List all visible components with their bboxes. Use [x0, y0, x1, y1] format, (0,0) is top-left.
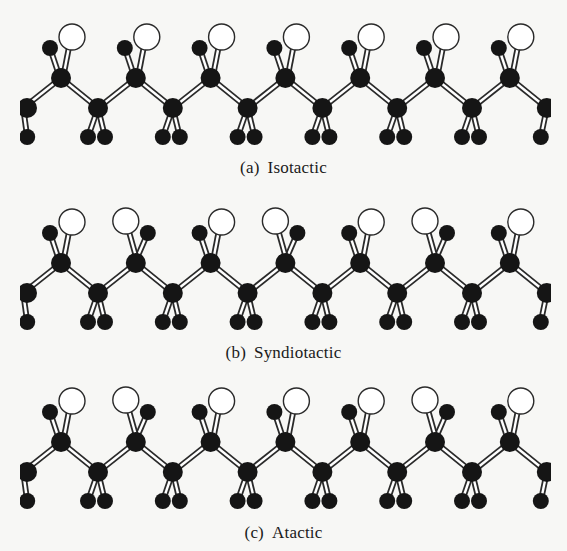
carbon-backbone-atom	[88, 462, 108, 482]
hydrogen-atom	[80, 129, 96, 145]
substituent-group	[508, 209, 534, 235]
carbon-backbone-atom	[350, 432, 370, 452]
substituent-group	[59, 388, 85, 414]
hydrogen-atom	[172, 314, 188, 330]
left-edge-crop	[0, 0, 20, 551]
substituent-group	[358, 209, 384, 235]
hydrogen-atom	[192, 404, 208, 420]
substituent-group	[134, 24, 160, 50]
hydrogen-atom	[471, 129, 487, 145]
carbon-backbone-atom	[425, 432, 445, 452]
carbon-backbone-atom	[201, 432, 221, 452]
hydrogen-atom	[140, 225, 156, 241]
hydrogen-atom	[471, 314, 487, 330]
substituent-group	[412, 208, 438, 234]
caption-text: Isotactic	[268, 158, 327, 177]
substituent-group	[59, 24, 85, 50]
substituent-group	[209, 388, 235, 414]
carbon-backbone-atom	[425, 253, 445, 273]
hydrogen-atom	[321, 129, 337, 145]
carbon-backbone-atom	[312, 283, 332, 303]
carbon-backbone-atom	[238, 98, 258, 118]
hydrogen-atom	[396, 129, 412, 145]
carbon-backbone-atom	[425, 68, 445, 88]
hydrogen-atom	[491, 40, 507, 56]
hydrogen-atom	[266, 404, 282, 420]
hydrogen-atom	[192, 40, 208, 56]
hydrogen-atom	[454, 493, 470, 509]
substituent-group	[412, 387, 438, 413]
hydrogen-atom	[19, 314, 35, 330]
hydrogen-atom	[304, 129, 320, 145]
hydrogen-atom	[379, 493, 395, 509]
hydrogen-atom	[140, 404, 156, 420]
hydrogen-atom	[97, 129, 113, 145]
hydrogen-atom	[341, 404, 357, 420]
carbon-backbone-atom	[51, 432, 71, 452]
caption-syndiotactic: (b)Syndiotactic	[0, 343, 567, 363]
carbon-backbone-atom	[500, 68, 520, 88]
caption-text: Atactic	[272, 523, 322, 542]
substituent-group	[283, 388, 309, 414]
carbon-backbone-atom	[350, 253, 370, 273]
carbon-backbone-atom	[201, 253, 221, 273]
hydrogen-atom	[379, 314, 395, 330]
carbon-backbone-atom	[387, 462, 407, 482]
carbon-backbone-atom	[387, 283, 407, 303]
hydrogen-atom	[304, 314, 320, 330]
hydrogen-atom	[230, 493, 246, 509]
hydrogen-atom	[396, 493, 412, 509]
substituent-group	[508, 24, 534, 50]
hydrogen-atom	[97, 493, 113, 509]
carbon-backbone-atom	[51, 68, 71, 88]
substituent-group	[283, 24, 309, 50]
carbon-backbone-atom	[126, 68, 146, 88]
hydrogen-atom	[155, 129, 171, 145]
substituent-group	[508, 388, 534, 414]
substituent-group	[209, 24, 235, 50]
hydrogen-atom	[155, 493, 171, 509]
carbon-backbone-atom	[462, 283, 482, 303]
carbon-backbone-atom	[312, 462, 332, 482]
caption-atactic: (c)Atactic	[0, 523, 567, 543]
hydrogen-atom	[42, 404, 58, 420]
carbon-backbone-atom	[238, 283, 258, 303]
hydrogen-atom	[80, 314, 96, 330]
hydrogen-atom	[454, 129, 470, 145]
substituent-group	[59, 209, 85, 235]
hydrogen-atom	[321, 314, 337, 330]
hydrogen-atom	[42, 40, 58, 56]
carbon-backbone-atom	[88, 98, 108, 118]
caption-isotactic: (a)Isotactic	[0, 158, 567, 178]
hydrogen-atom	[247, 129, 263, 145]
substituent-group	[209, 209, 235, 235]
hydrogen-atom	[230, 129, 246, 145]
carbon-backbone-atom	[126, 432, 146, 452]
hydrogen-atom	[117, 40, 133, 56]
hydrogen-atom	[533, 314, 549, 330]
carbon-backbone-atom	[238, 462, 258, 482]
caption-tag: (a)	[240, 158, 259, 177]
hydrogen-atom	[266, 40, 282, 56]
carbon-backbone-atom	[163, 98, 183, 118]
hydrogen-atom	[491, 404, 507, 420]
hydrogen-atom	[304, 493, 320, 509]
hydrogen-atom	[230, 314, 246, 330]
carbon-backbone-atom	[462, 462, 482, 482]
hydrogen-atom	[42, 225, 58, 241]
hydrogen-atom	[454, 314, 470, 330]
hydrogen-atom	[533, 129, 549, 145]
hydrogen-atom	[80, 493, 96, 509]
hydrogen-atom	[341, 225, 357, 241]
right-edge-crop	[551, 0, 567, 551]
hydrogen-atom	[439, 404, 455, 420]
substituent-group	[358, 388, 384, 414]
substituent-group	[358, 24, 384, 50]
hydrogen-atom	[533, 493, 549, 509]
carbon-backbone-atom	[163, 462, 183, 482]
hydrogen-atom	[172, 129, 188, 145]
substituent-group	[113, 387, 139, 413]
substituent-group	[433, 24, 459, 50]
carbon-backbone-atom	[88, 283, 108, 303]
carbon-backbone-atom	[500, 253, 520, 273]
